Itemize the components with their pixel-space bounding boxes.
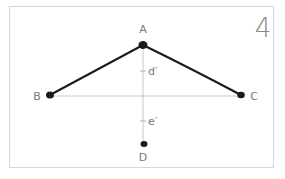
label-b: B	[33, 90, 41, 103]
stroke-a-to-c	[143, 45, 241, 95]
stroke-a-to-b	[50, 45, 143, 95]
label-a: A	[139, 23, 147, 36]
point-b-dot	[46, 92, 54, 99]
label-c: C	[250, 90, 258, 103]
point-a-dot	[139, 41, 148, 49]
point-c-dot	[237, 92, 245, 98]
diagram-canvas: A B C D d′ e′ 4	[0, 0, 285, 179]
label-d-prime: d′	[148, 65, 158, 78]
label-e-prime: e′	[148, 115, 158, 128]
panel-number: 4	[255, 13, 272, 43]
point-d-dot	[141, 141, 148, 147]
label-d: D	[139, 151, 147, 164]
